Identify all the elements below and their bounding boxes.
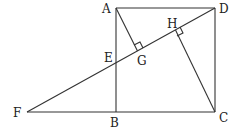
label-B: B (110, 116, 119, 130)
label-H: H (167, 17, 177, 31)
geometry-diagram: A D B C F E G H (0, 0, 239, 136)
label-D: D (219, 2, 229, 16)
label-C: C (219, 111, 228, 125)
label-E: E (104, 51, 113, 65)
segment-FD (27, 8, 215, 112)
segment-CH (176, 30, 216, 112)
label-F: F (13, 106, 21, 120)
label-A: A (101, 2, 111, 16)
label-G: G (137, 54, 147, 68)
